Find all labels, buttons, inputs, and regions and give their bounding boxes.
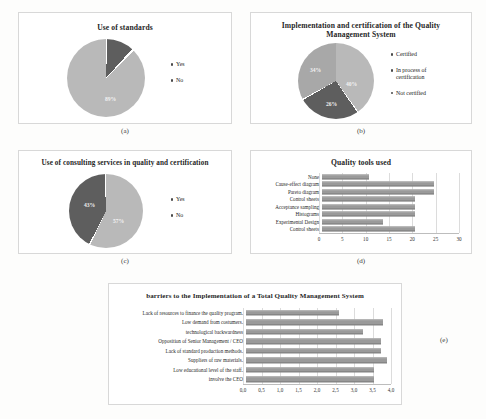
- panel-e-caption: (e): [440, 336, 448, 344]
- bar-track: [322, 211, 462, 219]
- x-axis-tick: 15: [386, 236, 391, 242]
- bar-row: Pareto diagram: [257, 188, 467, 196]
- legend-item-yes: Yes: [171, 196, 185, 203]
- legend-a: Yes No: [171, 61, 185, 93]
- bar-row: Lack of resources to finance the quality…: [115, 308, 397, 318]
- legend-dot-icon: [171, 214, 173, 216]
- bar-fill: [322, 204, 415, 209]
- legend-b: Certified In process of certification No…: [391, 51, 467, 106]
- panel-a-caption: (a): [18, 127, 232, 135]
- bar-fill: [322, 227, 415, 232]
- panel-b-title: Implementation and certification of the …: [251, 21, 471, 40]
- bar-row: Low demand from costumers.: [115, 318, 397, 328]
- bar-category-label: Pareto diagram: [257, 189, 322, 195]
- pie-b-label-in-process: 26%: [326, 101, 337, 107]
- bar-row: Control sheets: [257, 196, 467, 204]
- x-axis-tick: 5: [341, 236, 344, 242]
- bar-category-label: Acceptance sampling: [257, 204, 322, 210]
- bar-track: [246, 337, 394, 347]
- panel-e-title: barriers to the Implementation of a Tota…: [109, 292, 401, 301]
- legend-dot-icon: [391, 53, 393, 55]
- bar-fill: [246, 320, 383, 325]
- legend-label: In process of certification: [396, 67, 426, 81]
- legend-dot-icon: [171, 79, 173, 81]
- pie-chart-c: 57% 43%: [69, 174, 143, 248]
- x-axis-tick: 1,0: [277, 387, 283, 393]
- bar-category-label: involve the CEO: [115, 376, 246, 382]
- bar-row: Opposition of Senior Management / CEO: [115, 337, 397, 347]
- bar-fill: [322, 219, 383, 224]
- bar-row: Lack of standard production methods.: [115, 346, 397, 356]
- bar-track: [322, 203, 462, 211]
- legend-label: No: [176, 212, 183, 219]
- pie-c-label-no: 43%: [84, 202, 95, 208]
- pie-c-slices: [69, 174, 143, 248]
- panel-b-title-line2: Management System: [326, 30, 395, 39]
- legend-c: Yes No: [171, 196, 185, 228]
- x-axis-tick: 0,5: [258, 387, 264, 393]
- x-axis-tick: 25: [433, 236, 438, 242]
- bar-chart-d-axis: 051015202530: [257, 233, 467, 249]
- legend-label: Yes: [176, 61, 185, 68]
- panel-d-title: Quality tools used: [251, 158, 471, 167]
- bar-row: Acceptance sampling: [257, 203, 467, 211]
- bar-fill: [322, 197, 415, 202]
- bar-chart-e-axis: 0,00,51,01,52,02,53,03,54,0: [115, 384, 397, 400]
- bar-row: None: [257, 173, 467, 181]
- x-axis-line: [243, 384, 391, 385]
- legend-item-in-process: In process of certification: [391, 67, 467, 81]
- bar-track: [322, 218, 462, 226]
- bar-row: technological backwardness: [115, 327, 397, 337]
- x-axis-line: [319, 233, 459, 234]
- bar-fill: [246, 367, 374, 372]
- x-axis-tick: 30: [456, 236, 461, 242]
- bar-row: Control sheets: [257, 226, 467, 234]
- bar-category-label: Histograms: [257, 211, 322, 217]
- x-axis-tick: 10: [363, 236, 368, 242]
- bar-fill: [246, 358, 387, 363]
- panel-e: barriers to the Implementation of a Tota…: [108, 283, 402, 405]
- bar-track: [246, 356, 394, 366]
- bar-category-label: Experimental Design: [257, 219, 322, 225]
- bar-fill: [246, 348, 381, 353]
- bar-category-label: technological backwardness: [115, 329, 246, 335]
- panel-c: Use of consulting services in quality an…: [18, 150, 232, 254]
- bar-row: Suppliers of raw materials.: [115, 356, 397, 366]
- bar-track: [322, 188, 462, 196]
- pie-a-slices: [67, 39, 145, 117]
- legend-dot-icon: [171, 63, 173, 65]
- bar-chart-e: Lack of resources to finance the quality…: [115, 308, 397, 400]
- bar-track: [322, 181, 462, 189]
- bar-track: [322, 226, 462, 234]
- legend-item-no: No: [171, 212, 185, 219]
- panel-b-title-line1: Implementation and certification of the …: [282, 21, 440, 30]
- pie-a-label-yes: 89%: [105, 96, 116, 102]
- bar-track: [246, 327, 394, 337]
- panel-c-title: Use of consulting services in quality an…: [19, 159, 231, 168]
- panel-d: Quality tools used NoneCause-effect diag…: [250, 150, 472, 254]
- bar-fill: [246, 339, 381, 344]
- bar-fill: [322, 189, 434, 194]
- legend-label-line2: certification: [396, 74, 424, 80]
- bar-category-label: Opposition of Senior Management / CEO: [115, 338, 246, 344]
- bar-row: Experimental Design: [257, 218, 467, 226]
- bar-category-label: Low demand from costumers.: [115, 319, 246, 325]
- bar-fill: [322, 174, 369, 179]
- bar-category-label: None: [257, 174, 322, 180]
- bar-row: Cause-effect diagram: [257, 181, 467, 189]
- bar-fill: [322, 182, 434, 187]
- bar-chart-d: NoneCause-effect diagramPareto diagramCo…: [257, 173, 467, 249]
- x-axis-tick: 0: [318, 236, 321, 242]
- bar-category-label: Suppliers of raw materials.: [115, 357, 246, 363]
- pie-chart-a: 89%: [67, 39, 145, 117]
- bar-category-label: Lack of standard production methods.: [115, 348, 246, 354]
- legend-label-line1: In process of: [396, 67, 426, 73]
- x-axis-tick: 0,0: [240, 387, 246, 393]
- bar-fill: [322, 212, 415, 217]
- x-axis-tick: 3,0: [351, 387, 357, 393]
- x-axis-tick: 2,5: [332, 387, 338, 393]
- bar-category-label: Low educational level of the staff.: [115, 367, 246, 373]
- panel-d-caption: (d): [250, 257, 472, 265]
- bar-chart-d-rows: NoneCause-effect diagramPareto diagramCo…: [257, 173, 467, 233]
- x-axis-tick: 1,5: [295, 387, 301, 393]
